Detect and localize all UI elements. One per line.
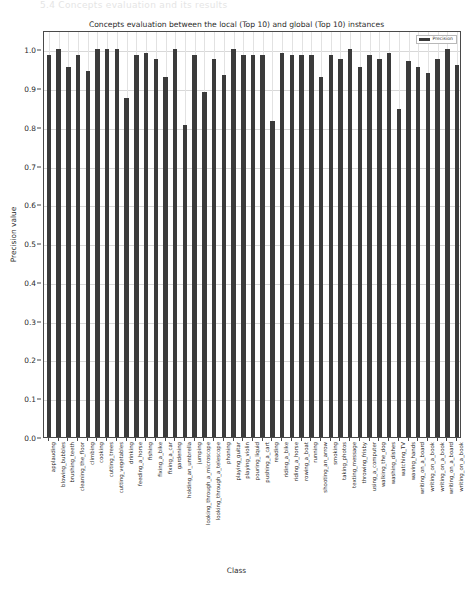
y-tick-label: 0.1: [24, 395, 36, 404]
bar: [319, 77, 323, 437]
bar: [144, 53, 148, 437]
x-tick-label: reading: [273, 442, 279, 462]
figure-container: Concepts evaluation between the local (T…: [0, 0, 473, 595]
x-tick-mark: [320, 438, 321, 441]
x-tick-mark: [96, 438, 97, 441]
bar: [348, 49, 352, 437]
x-tick-label: playing_guitar: [235, 442, 241, 480]
x-tick-label: blowing_bubbles: [60, 442, 66, 487]
x-tick-mark: [427, 438, 428, 441]
x-tick-label: cutting_trees: [108, 442, 114, 477]
x-tick-mark: [174, 438, 175, 441]
x-tick-label: looking_through_a_microscope: [205, 442, 211, 525]
bar: [367, 55, 371, 437]
y-tick-label: 0.0: [24, 434, 36, 443]
bar: [397, 109, 401, 437]
bar: [338, 59, 342, 437]
x-tick-mark: [339, 438, 340, 441]
y-axis-ticks: 0.00.10.20.30.40.50.60.70.80.91.0: [0, 31, 43, 438]
x-tick-mark: [408, 438, 409, 441]
x-tick-mark: [165, 438, 166, 441]
x-tick-mark: [223, 438, 224, 441]
bar: [290, 55, 294, 437]
x-tick-label: pushing_a_cart: [264, 442, 270, 483]
x-tick-label: fixing_a_car: [167, 442, 173, 474]
y-tick-label: 0.5: [24, 240, 36, 249]
bar: [173, 49, 177, 437]
y-tick-mark: [37, 89, 41, 90]
x-tick-mark: [126, 438, 127, 441]
y-tick-mark: [37, 127, 41, 128]
x-tick-mark: [398, 438, 399, 441]
bar: [329, 55, 333, 437]
chart-title: Concepts evaluation between the local (T…: [0, 20, 473, 29]
y-tick-label: 1.0: [24, 46, 36, 55]
x-tick-mark: [194, 438, 195, 441]
bar: [445, 49, 449, 437]
x-tick-mark: [145, 438, 146, 441]
x-tick-mark: [330, 438, 331, 441]
bars-layer: [44, 32, 460, 437]
x-tick-label: shooting_an_arrow: [322, 442, 328, 493]
bar: [309, 55, 313, 437]
x-tick-label: brushing_teeth: [69, 442, 75, 483]
bar: [154, 59, 158, 437]
x-tick-label: riding_a_horse: [293, 442, 299, 481]
x-tick-label: writing_on_a_book: [439, 442, 445, 492]
x-tick-label: jumping: [196, 442, 202, 464]
x-tick-label: phoning: [225, 442, 231, 464]
x-tick-mark: [446, 438, 447, 441]
x-tick-label: cutting_vegetables: [118, 442, 124, 493]
y-tick-mark: [37, 282, 41, 283]
bar: [260, 55, 264, 437]
x-tick-label: smoking: [332, 442, 338, 465]
x-tick-mark: [203, 438, 204, 441]
bar: [56, 49, 60, 437]
x-tick-label: cleaning_the_floor: [79, 442, 85, 491]
x-tick-label: fixing_a_bike: [157, 442, 163, 477]
y-tick-label: 0.8: [24, 123, 36, 132]
bar: [124, 98, 128, 437]
bar: [86, 71, 90, 437]
x-tick-label: cooking: [98, 442, 104, 463]
legend-label-precision: Precision: [433, 37, 454, 42]
x-tick-label: writing_on_a_board: [419, 442, 425, 494]
legend-swatch-precision: [419, 38, 430, 42]
bar: [299, 55, 303, 437]
y-tick-label: 0.4: [24, 278, 36, 287]
x-tick-mark: [388, 438, 389, 441]
x-tick-label: waving_hands: [410, 442, 416, 480]
x-tick-mark: [116, 438, 117, 441]
y-tick-mark: [37, 360, 41, 361]
x-tick-mark: [456, 438, 457, 441]
bar: [241, 55, 245, 437]
x-tick-label: riding_a_bike: [283, 442, 289, 477]
x-tick-mark: [106, 438, 107, 441]
bar: [192, 55, 196, 437]
bar: [377, 59, 381, 437]
x-tick-mark: [184, 438, 185, 441]
x-tick-label: feeding_a_horse: [137, 442, 143, 486]
bar: [134, 55, 138, 437]
bar: [455, 65, 459, 437]
x-tick-mark: [301, 438, 302, 441]
x-tick-mark: [281, 438, 282, 441]
x-tick-label: fishing: [147, 442, 153, 460]
y-tick-mark: [37, 321, 41, 322]
x-tick-label: using_a_computer: [371, 442, 377, 491]
y-tick-mark: [37, 399, 41, 400]
x-tick-mark: [291, 438, 292, 441]
bar: [95, 49, 99, 437]
y-tick-label: 0.6: [24, 201, 36, 210]
x-tick-mark: [233, 438, 234, 441]
y-tick-mark: [37, 438, 41, 439]
x-tick-label: taking_photos: [341, 442, 347, 480]
x-tick-mark: [310, 438, 311, 441]
x-tick-mark: [271, 438, 272, 441]
x-tick-mark: [262, 438, 263, 441]
y-tick-mark: [37, 244, 41, 245]
x-tick-mark: [369, 438, 370, 441]
x-tick-label: climbing: [89, 442, 95, 465]
chart-legend: Precision: [416, 35, 458, 44]
bar: [280, 53, 284, 437]
